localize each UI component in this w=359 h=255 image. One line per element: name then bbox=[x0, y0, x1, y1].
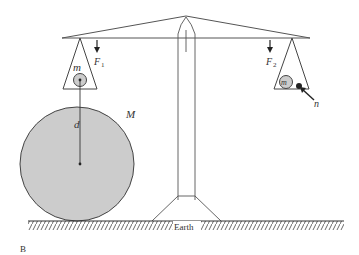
label-small-mass: m bbox=[73, 61, 81, 73]
panel-label: B bbox=[20, 244, 26, 254]
label-ground: Earth bbox=[174, 222, 194, 232]
force-arrow-left: F 1 bbox=[93, 40, 105, 69]
balance-pillar bbox=[152, 17, 221, 221]
diagram-canvas: m F 1 d M m n F 2 Earth B bbox=[0, 0, 359, 255]
force-arrow-right: F 2 bbox=[265, 40, 277, 69]
right-pan: m n bbox=[274, 38, 319, 109]
label-small-mass-right: m bbox=[281, 78, 287, 87]
label-f1: F bbox=[93, 56, 101, 67]
label-extra-mass: n bbox=[314, 98, 319, 109]
label-f2-sub: 2 bbox=[273, 61, 277, 69]
label-distance: d bbox=[74, 118, 80, 130]
label-f2: F bbox=[265, 56, 273, 67]
label-f1-sub: 1 bbox=[101, 61, 105, 69]
big-sphere: d M bbox=[20, 80, 136, 221]
label-big-mass: M bbox=[125, 108, 136, 120]
balance-diagram: m F 1 d M m n F 2 Earth B bbox=[0, 0, 359, 255]
ground: Earth bbox=[28, 221, 344, 232]
